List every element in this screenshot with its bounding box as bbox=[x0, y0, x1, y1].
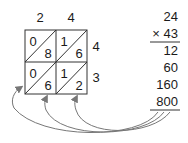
top-digit-ones: 4 bbox=[67, 10, 74, 25]
side-digit-bottom: 3 bbox=[92, 70, 99, 85]
top-digit-tens: 2 bbox=[36, 10, 43, 25]
arrow-to-left-diagonal bbox=[12, 88, 158, 133]
cell-r2c1-tens: 0 bbox=[29, 66, 36, 81]
cell-r1c1-tens: 0 bbox=[29, 34, 36, 49]
lattice-multiplication-diagram: 2 4 0 8 1 6 0 6 1 2 4 3 24 × 43 12 60 16… bbox=[0, 0, 188, 143]
mapping-arrows bbox=[12, 88, 170, 133]
partial-product-3: 160 bbox=[156, 77, 178, 92]
multiplier: × 43 bbox=[152, 26, 178, 41]
diagram-canvas: 2 4 0 8 1 6 0 6 1 2 4 3 24 × 43 12 60 16… bbox=[0, 0, 188, 143]
cell-r1c2-ones: 6 bbox=[75, 46, 82, 61]
cell-r1c1-ones: 8 bbox=[44, 46, 51, 61]
partial-product-4: 800 bbox=[156, 94, 178, 109]
partial-product-1: 12 bbox=[164, 43, 178, 58]
cell-r2c1-ones: 6 bbox=[44, 78, 51, 93]
side-digit-top: 4 bbox=[92, 39, 99, 54]
cell-r2c2-tens: 1 bbox=[60, 66, 67, 81]
partial-product-2: 60 bbox=[164, 60, 178, 75]
multiplicand: 24 bbox=[164, 9, 178, 24]
cell-r1c2-tens: 1 bbox=[60, 34, 67, 49]
cell-r2c2-ones: 2 bbox=[75, 78, 82, 93]
